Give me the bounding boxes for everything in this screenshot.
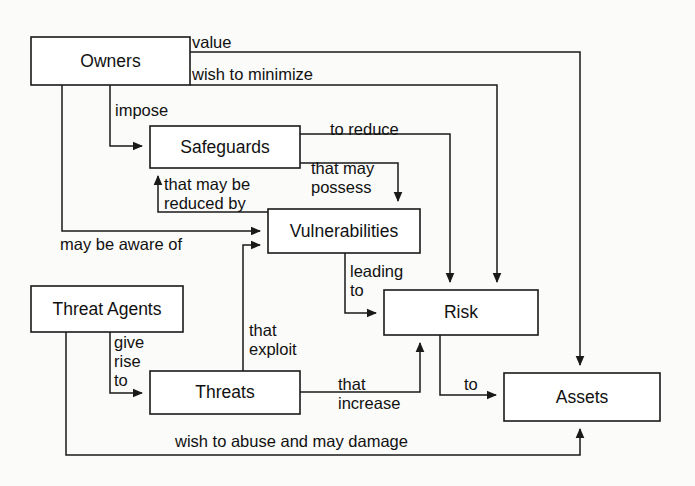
node-threats[interactable]: Threats (150, 371, 300, 414)
edge-label-may-be-aware-of: may be aware of (60, 235, 182, 253)
node-risk-label: Risk (444, 302, 478, 322)
edge-label-wish-to-abuse-and-may-damage: wish to abuse and may damage (174, 432, 408, 450)
edge-label-that-exploit: thatexploit (249, 321, 297, 358)
edge-label-wish-to-minimize: wish to minimize (191, 65, 313, 83)
node-vulnerabilities[interactable]: Vulnerabilities (268, 209, 420, 253)
edge-label-value: value (192, 33, 231, 51)
node-assets[interactable]: Assets (504, 373, 660, 421)
security-relationship-diagram: Owners Safeguards Vulnerabilities Threat… (0, 0, 695, 486)
edge-label-that-may-possess: that maypossess (311, 159, 375, 196)
edge-label-to-reduce: to reduce (330, 120, 399, 138)
node-owners-label: Owners (80, 51, 141, 71)
node-threat-agents-label: Threat Agents (53, 299, 162, 319)
node-threats-label: Threats (195, 382, 255, 402)
edge-label-to: to (464, 375, 478, 393)
edge-label-that-may-be-reduced-by: that may bereduced by (164, 175, 250, 212)
edge-label-impose: impose (115, 101, 168, 119)
edge-label-that-increase: thatincrease (338, 375, 400, 412)
node-safeguards[interactable]: Safeguards (150, 126, 300, 168)
node-vulnerabilities-label: Vulnerabilities (290, 221, 399, 241)
node-safeguards-label: Safeguards (180, 137, 270, 157)
node-owners[interactable]: Owners (31, 37, 190, 85)
node-assets-label: Assets (556, 387, 609, 407)
node-threat-agents[interactable]: Threat Agents (31, 286, 183, 332)
edge-label-give-rise-to: giveriseto (114, 333, 144, 389)
diagram-canvas: Owners Safeguards Vulnerabilities Threat… (0, 0, 695, 486)
edge-safeguards-reduce-risk (300, 134, 450, 282)
node-risk[interactable]: Risk (384, 290, 538, 335)
